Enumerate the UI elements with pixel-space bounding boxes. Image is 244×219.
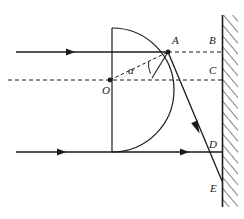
- label-B: B: [209, 34, 216, 46]
- diagram-canvas: A B C D E O α: [0, 0, 244, 219]
- lower-incident-arrowhead-1: [57, 149, 66, 156]
- wall-hatching: [223, 15, 238, 207]
- label-O: O: [102, 84, 110, 96]
- label-C: C: [209, 64, 217, 76]
- point-A-marker: [166, 50, 171, 55]
- hatched-wall: [223, 15, 239, 207]
- upper-incident-arrowhead: [66, 49, 75, 56]
- lens-curved-face: [112, 28, 174, 152]
- lower-incident-ray: [16, 149, 222, 156]
- upper-incident-ray: [16, 49, 168, 56]
- refracted-ray-arrowhead: [191, 120, 199, 133]
- label-A: A: [171, 34, 179, 46]
- lower-incident-arrowhead-2: [180, 149, 189, 156]
- label-alpha: α: [128, 64, 134, 76]
- optics-diagram: A B C D E O α: [0, 0, 244, 219]
- label-E: E: [209, 182, 217, 194]
- label-D: D: [208, 138, 217, 150]
- angle-alpha-arc: [148, 61, 150, 73]
- point-O-marker: [108, 78, 113, 83]
- semicircular-lens: [112, 28, 174, 152]
